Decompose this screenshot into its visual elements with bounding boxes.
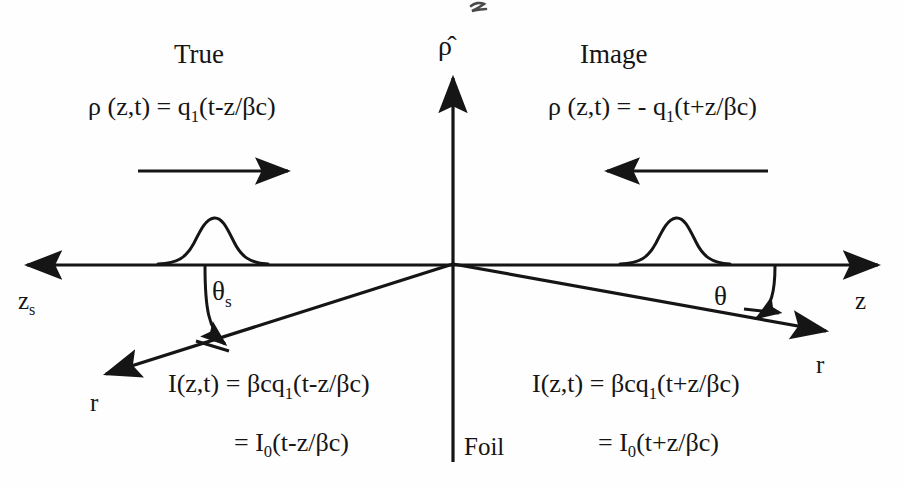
right-eq-lhs: ρ (z,t) = - q: [548, 92, 666, 121]
right-intensity-equation-line1: I(z,t) = βcq1(t+z/βc): [532, 371, 740, 397]
angle-arc-theta: [744, 266, 779, 318]
left-int1-lhs: I(z,t) = βcq: [168, 369, 285, 398]
left-int1-sub: 1: [285, 384, 293, 403]
r-axis-left-label: r: [90, 390, 98, 415]
theta-label: θ: [714, 283, 727, 310]
left-panel-title: True: [174, 41, 224, 68]
left-eq-rhs: (t-z/βc): [199, 92, 276, 121]
zs-axis-label-sub: s: [29, 301, 35, 318]
r-axis-right-label: r: [816, 352, 824, 377]
right-eq-sub: 1: [666, 107, 674, 126]
right-int1-rhs: (t+z/βc): [657, 369, 740, 398]
left-int2-lhs: = I: [234, 428, 264, 457]
left-int2-rhs: (t-z/βc): [272, 428, 349, 457]
left-eq-lhs: ρ (z,t) = q: [88, 92, 191, 121]
theta-s-sub: s: [225, 292, 232, 311]
theta-s-base: θ: [212, 276, 225, 306]
right-eq-rhs: (t+z/βc): [674, 92, 757, 121]
left-int2-sub: 0: [264, 442, 272, 461]
gaussian-bunch-left: [158, 218, 268, 264]
left-eq-sub: 1: [191, 107, 199, 126]
theta-s-label: θs: [212, 278, 232, 305]
zs-axis-label: zs: [18, 288, 35, 313]
rho-hat-axis-label: ρ̂: [438, 32, 452, 60]
right-panel-title: Image: [580, 41, 647, 68]
z-axis-label: z: [855, 288, 866, 313]
right-int2-rhs: (t+z/βc): [636, 428, 719, 457]
diagram-vector-layer: [0, 0, 903, 489]
zs-axis-label-base: z: [18, 287, 29, 314]
right-int1-lhs: I(z,t) = βcq: [532, 369, 649, 398]
right-int2-lhs: = I: [598, 428, 628, 457]
left-charge-density-equation: ρ (z,t) = q1(t-z/βc): [88, 94, 276, 120]
left-intensity-equation-line2: = I0(t-z/βc): [234, 430, 349, 456]
right-int2-sub: 0: [628, 442, 636, 461]
right-intensity-equation-line2: = I0(t+z/βc): [598, 430, 719, 456]
gaussian-bunch-right: [620, 218, 730, 264]
r-axis-right-line: [453, 264, 826, 331]
right-int1-sub: 1: [649, 384, 657, 403]
transition-radiation-figure: True Image ρ̂ ρ (z,t) = q1(t-z/βc) ρ (z,…: [0, 0, 903, 489]
foil-label: Foil: [464, 434, 504, 459]
right-charge-density-equation: ρ (z,t) = - q1(t+z/βc): [548, 94, 757, 120]
top-partial-glyph-artifact: [471, 3, 486, 11]
left-int1-rhs: (t-z/βc): [293, 369, 370, 398]
left-intensity-equation-line1: I(z,t) = βcq1(t-z/βc): [168, 371, 370, 397]
r-axis-left-line: [106, 264, 453, 374]
